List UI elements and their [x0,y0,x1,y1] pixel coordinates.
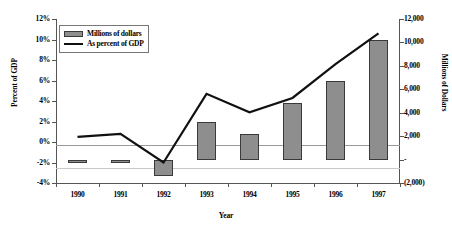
legend-item-as-percent-of-gdp: As percent of GDP [64,39,144,48]
x-axis-category-label: 1992 [142,190,186,199]
x-axis-tick [314,183,315,187]
x-axis-category-label: 1996 [314,190,358,199]
bar [369,40,389,159]
bar [197,122,217,159]
bar [68,160,88,164]
left-axis-tick-label: -4% [4,179,50,187]
x-axis-title: Year [0,211,452,220]
bar [154,160,174,176]
left-axis-tick [52,19,56,20]
x-axis-category-label: 1997 [357,190,401,199]
left-axis-tick [52,60,56,61]
legend-item-millions-of-dollars: Millions of dollars [64,29,144,38]
legend-line-swatch-icon [64,43,83,45]
x-axis-tick [357,183,358,187]
left-axis-tick [52,122,56,123]
x-axis-category-label: 1994 [228,190,272,199]
legend-bar-swatch-icon [64,31,83,37]
right-axis-line [399,19,400,183]
x-axis-tick [56,183,57,187]
left-axis-tick-label: 12% [4,15,50,23]
chart-legend: Millions of dollars As percent of GDP [59,25,149,53]
left-axis-tick [52,101,56,102]
left-axis-tick-label: -2% [4,159,50,167]
x-axis-tick [400,183,401,187]
left-axis-tick [52,163,56,164]
right-axis-title: Millions of Dollars [440,38,449,128]
legend-label-as-percent-of-gdp: As percent of GDP [87,39,144,48]
bar [283,103,303,159]
bar [326,81,346,159]
right-axis-tick-label: (2,000) [404,179,448,187]
x-axis-category-label: 1995 [271,190,315,199]
x-axis-tick [271,183,272,187]
percent-zero-gridline [56,145,400,146]
x-axis-tick [228,183,229,187]
right-axis-tick-label: 12,000 [404,15,448,23]
x-axis-category-label: 1990 [56,190,100,199]
x-axis-category-label: 1993 [185,190,229,199]
legend-label-millions-of-dollars: Millions of dollars [87,29,142,38]
chart-container: -4%-2%0%2%4%6%8%10%12% (2,000)-2,0004,00… [0,0,452,234]
bar [111,160,131,163]
dollars-zero-gridline [56,168,400,169]
left-axis-tick [52,142,56,143]
right-axis-tick-label: 2,000 [404,132,448,140]
left-axis-line [56,19,57,183]
bar [240,134,260,160]
right-axis-tick-label: - [404,156,448,164]
x-axis-tick [142,183,143,187]
x-axis-category-label: 1991 [99,190,143,199]
left-axis-title: Percent of GDP [10,43,19,123]
left-axis-tick-label: 0% [4,138,50,146]
x-axis-tick [185,183,186,187]
left-axis-tick [52,81,56,82]
left-axis-tick [52,40,56,41]
x-axis-tick [99,183,100,187]
